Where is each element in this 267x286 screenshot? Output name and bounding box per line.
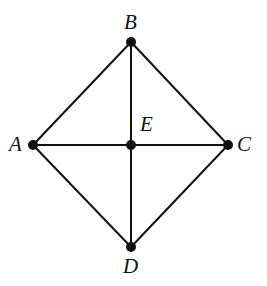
graph-vertex-c — [223, 140, 233, 150]
vertex-label-c: C — [237, 134, 251, 155]
graph-vertex-d — [126, 242, 136, 252]
graph-vertex-e — [126, 140, 136, 150]
graph-diagram-figure: A B C D E — [0, 0, 267, 286]
graph-edge-a-b — [33, 42, 131, 145]
graph-edge-c-d — [131, 145, 228, 247]
vertex-label-a: A — [9, 134, 22, 155]
graph-vertex-b — [126, 37, 136, 47]
graph-vertex-a — [28, 140, 38, 150]
vertex-label-e: E — [140, 114, 153, 135]
graph-edge-d-a — [33, 145, 131, 247]
vertex-label-b: B — [124, 12, 137, 33]
vertex-label-d: D — [123, 256, 138, 277]
graph-canvas — [0, 0, 267, 286]
